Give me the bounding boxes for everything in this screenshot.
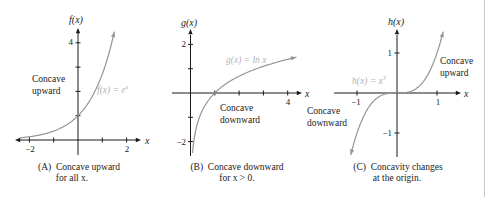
x-axis-left-arrowhead [15, 138, 20, 142]
panel-a-caption-line2: for all x. [56, 173, 88, 183]
panel-c-caption-line2: at the origin. [373, 173, 421, 183]
curve-label-exponent: 3 [383, 74, 386, 81]
panel-a-curve-label: f(x) = ex [97, 83, 128, 95]
panel-c-y-tick-label: −1 [382, 128, 392, 138]
panel-b-x-tick-label: 4 [286, 97, 291, 107]
concavity-figure: f(x) x 4 −2 2 f(x) = ex Concave upward (… [0, 0, 492, 197]
column-divider [484, 0, 485, 197]
annotation-line: Concave [440, 56, 473, 68]
panel-c-curve-label: h(x) = x3 [352, 74, 386, 86]
panel-a-x-axis-label: x [145, 135, 149, 146]
annotation-line: upward [440, 68, 473, 80]
panel-c-x-axis-label: x [464, 88, 468, 99]
panel-c-caption: (C) Concavity changes [353, 162, 442, 172]
panel-a-x-tick-label: −2 [25, 144, 35, 154]
panel-b-y-axis-label: g(x) [181, 17, 197, 28]
annotation-line: Concave [220, 103, 260, 115]
panel-c-y-axis-label: h(x) [388, 16, 404, 27]
panel-a-y-tick-label: 4 [69, 37, 74, 47]
annotation-line: downward [220, 115, 260, 127]
panel-c-y-tick-label: 1 [388, 48, 393, 58]
x-axis-arrowhead [297, 91, 302, 95]
panel-b-caption-line2: for x > 0. [219, 173, 254, 183]
annotation-line: Concave [307, 106, 347, 118]
panel-c-x-tick-label: 1 [436, 97, 441, 107]
panel-a-y-axis-label: f(x) [69, 14, 83, 25]
panel-b-y-tick-label: 2 [182, 39, 187, 49]
annotation-line: downward [307, 118, 347, 130]
panel-a-caption: (A) Concave upward [38, 162, 120, 172]
panel-c-annotation-upward: Concave upward [440, 56, 473, 79]
y-axis-arrowhead [395, 29, 399, 34]
curve-label-base: f(x) = e [97, 85, 126, 95]
x-axis-arrowhead [136, 138, 141, 142]
x-axis-arrowhead [456, 91, 461, 95]
panel-b-annotation: Concave downward [220, 103, 260, 126]
panel-c-x-tick-label: −1 [351, 97, 361, 107]
curve-label-base: g(x) = ln x [226, 55, 266, 65]
annotation-line: Concave [32, 74, 65, 86]
y-axis-arrowhead [76, 28, 80, 33]
curve-label-exponent: x [126, 83, 129, 90]
panel-a-x-tick-label: 2 [125, 144, 130, 154]
annotation-line: upward [32, 86, 65, 98]
panel-a-annotation: Concave upward [32, 74, 65, 97]
y-axis-arrowhead [188, 29, 192, 34]
panel-c-annotation-downward: Concave downward [307, 106, 347, 129]
panel-b-x-axis-label: x [305, 88, 309, 99]
panel-b-caption: (B) Concave downward [190, 162, 283, 172]
curve-label-base: h(x) = x [352, 76, 383, 86]
panel-b-y-tick-label: −2 [176, 137, 186, 147]
panel-b-curve-label: g(x) = ln x [226, 53, 266, 65]
